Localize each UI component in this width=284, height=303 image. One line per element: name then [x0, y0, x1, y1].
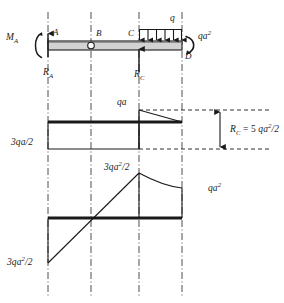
label-moment-D: qa2	[198, 30, 211, 42]
label-point-B: B	[96, 29, 102, 38]
label-moment-start: 3qa2/2	[7, 256, 33, 268]
station-gridlines	[48, 12, 182, 297]
label-reaction-A: RA	[43, 68, 53, 80]
bending-moment-diagram	[48, 173, 182, 263]
beam-diagram-figure: MA A B C D q qa2 RA RC qa 3qa/2 RC = 5 q…	[0, 0, 284, 303]
diagram-canvas	[0, 0, 284, 303]
label-moment-end: qa2	[208, 182, 221, 194]
distributed-load-arrows	[140, 30, 182, 41]
label-point-A: A	[53, 28, 59, 37]
label-shear-peak: qa	[117, 98, 127, 108]
label-distributed-load: q	[170, 14, 175, 24]
hinge-marker-B	[88, 42, 95, 49]
label-reaction-C-value: RC = 5 qa2/2	[230, 123, 279, 137]
label-moment-A: MA	[6, 33, 18, 45]
shear-constant-segment	[48, 122, 139, 149]
beam-loading-diagram	[36, 30, 194, 73]
label-point-D: D	[185, 52, 192, 61]
label-moment-peak: 3qa2/2	[104, 161, 130, 173]
moment-arc-A	[36, 34, 42, 58]
label-reaction-C: RC	[134, 70, 145, 82]
label-point-C: C	[128, 29, 134, 38]
moment-parabolic-segment	[139, 173, 182, 188]
label-shear-base: 3qa/2	[11, 138, 33, 148]
shear-linear-segment	[139, 110, 182, 122]
